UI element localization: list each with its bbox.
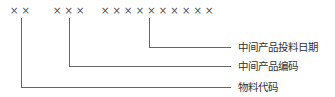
product-code-connector-horizontal	[69, 66, 231, 67]
input-date-label: 中间产品投料日期	[238, 41, 318, 53]
material-code-connector-vertical	[21, 18, 22, 88]
material-code-connector-horizontal	[21, 87, 231, 88]
product-code-symbols: × × ×	[53, 6, 85, 16]
product-code-connector-vertical	[69, 18, 70, 67]
input-date-symbols: × × × × × × × × × ×	[101, 6, 213, 16]
input-date-connector-horizontal	[149, 47, 231, 48]
product-code-label: 中间产品编码	[238, 60, 298, 72]
input-date-connector-vertical	[149, 18, 150, 48]
material-code-label: 物料代码	[238, 81, 278, 93]
material-code-symbols: × ×	[10, 6, 30, 16]
